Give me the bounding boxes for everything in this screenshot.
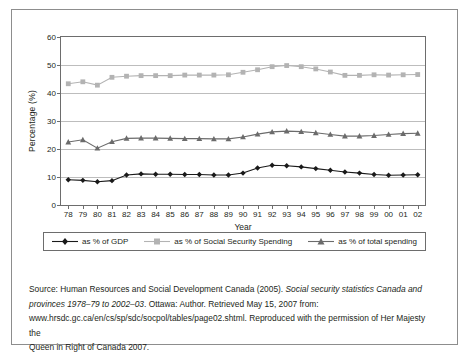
x-tick-mark	[258, 205, 259, 209]
source-line3: www.hrsdc.gc.ca/en/cs/sp/sdc/socpol/tabl…	[29, 313, 425, 338]
y-tick-label: 40	[47, 89, 56, 98]
x-tick-label: 89	[224, 210, 233, 219]
x-tick-mark	[243, 205, 244, 209]
x-tick-label: 87	[195, 210, 204, 219]
legend-label-social-security: as % of Social Security Spending	[174, 237, 292, 246]
x-tick-label: 86	[180, 210, 189, 219]
x-tick-label: 95	[311, 210, 320, 219]
data-point-marker	[211, 73, 216, 78]
x-tick-label: 79	[78, 210, 87, 219]
data-point-marker	[270, 64, 275, 69]
data-point-marker	[80, 178, 85, 183]
x-tick-mark	[185, 205, 186, 209]
data-point-marker	[255, 165, 260, 170]
data-point-marker	[313, 166, 318, 171]
x-tick-mark	[170, 205, 171, 209]
data-point-marker	[284, 163, 289, 168]
legend-marker-square-icon	[144, 237, 170, 246]
x-tick-mark	[359, 205, 360, 209]
x-tick-mark	[316, 205, 317, 209]
series-line-1	[68, 66, 417, 86]
y-axis-label: Percentage (%)	[27, 61, 37, 181]
x-tick-label: 02	[413, 210, 422, 219]
x-tick-mark	[301, 205, 302, 209]
data-point-marker	[343, 73, 348, 78]
x-tick-mark	[374, 205, 375, 209]
x-tick-mark	[199, 205, 200, 209]
data-point-marker	[284, 63, 289, 68]
legend-label-gdp: as % of GDP	[82, 237, 128, 246]
x-tick-mark	[97, 205, 98, 209]
data-point-marker	[110, 75, 115, 80]
data-point-marker	[342, 169, 347, 174]
data-point-marker	[372, 72, 377, 77]
x-tick-mark	[214, 205, 215, 209]
data-point-marker	[299, 64, 304, 69]
x-tick-label: 82	[122, 210, 131, 219]
data-point-marker	[371, 172, 376, 177]
data-point-marker	[328, 168, 333, 173]
x-tick-label: 91	[253, 210, 262, 219]
x-tick-mark	[228, 205, 229, 209]
x-tick-mark	[403, 205, 404, 209]
source-line1-a: Source: Human Resources and Social Devel…	[29, 284, 286, 294]
source-line4: Queen in Right of Canada 2007.	[29, 342, 149, 352]
data-point-marker	[415, 172, 420, 177]
data-point-marker	[357, 73, 362, 78]
data-point-marker	[109, 178, 114, 183]
x-tick-mark	[330, 205, 331, 209]
data-point-marker	[328, 70, 333, 75]
x-tick-label: 97	[340, 210, 349, 219]
plot-area: 0102030405060787980818283848586878889909…	[60, 36, 426, 206]
x-tick-mark	[272, 205, 273, 209]
legend-label-total-spending: as % of total spending	[338, 237, 417, 246]
source-line2-b: . Ottawa: Author. Retrieved May 15, 2007…	[144, 299, 319, 309]
x-tick-label: 92	[268, 210, 277, 219]
x-tick-mark	[389, 205, 390, 209]
x-tick-label: 99	[370, 210, 379, 219]
data-point-marker	[401, 72, 406, 77]
data-point-marker	[124, 172, 129, 177]
x-tick-label: 96	[326, 210, 335, 219]
data-point-marker	[95, 179, 100, 184]
x-tick-label: 01	[399, 210, 408, 219]
x-tick-mark	[345, 205, 346, 209]
data-point-marker	[415, 72, 420, 77]
legend-item-gdp: as % of GDP	[52, 237, 128, 246]
data-point-marker	[386, 173, 391, 178]
data-point-marker	[386, 73, 391, 78]
data-point-marker	[240, 170, 245, 175]
data-point-marker	[269, 163, 274, 168]
x-tick-label: 83	[137, 210, 146, 219]
source-line2-italic: provinces 1978–79 to 2002–03	[29, 299, 144, 309]
y-tick-label: 10	[47, 173, 56, 182]
data-point-marker	[168, 172, 173, 177]
y-tick-label: 0	[52, 201, 56, 210]
x-tick-mark	[418, 205, 419, 209]
x-axis-label: Year	[60, 222, 426, 232]
data-point-marker	[153, 172, 158, 177]
x-tick-mark	[68, 205, 69, 209]
x-tick-label: 81	[108, 210, 117, 219]
x-tick-label: 93	[282, 210, 291, 219]
chart-block: Percentage (%) 0102030405060787980818283…	[12, 16, 457, 266]
data-point-marker	[66, 177, 71, 182]
x-tick-label: 94	[297, 210, 306, 219]
data-point-marker	[400, 172, 405, 177]
x-tick-mark	[112, 205, 113, 209]
x-tick-mark	[83, 205, 84, 209]
x-tick-label: 00	[384, 210, 393, 219]
data-point-marker	[80, 137, 86, 142]
data-point-marker	[66, 81, 71, 86]
x-tick-label: 85	[166, 210, 175, 219]
x-tick-label: 78	[64, 210, 73, 219]
data-point-marker	[182, 73, 187, 78]
legend-item-social-security: as % of Social Security Spending	[144, 237, 292, 246]
chart-legend: as % of GDP as % of Social Security Spen…	[43, 232, 426, 251]
source-line1-italic: Social security statistics Canada and	[286, 284, 422, 294]
series-line-2	[68, 131, 417, 148]
data-point-marker	[124, 74, 129, 79]
y-tick-mark	[57, 205, 61, 206]
data-point-marker	[226, 72, 231, 77]
source-note: Source: Human Resources and Social Devel…	[29, 282, 439, 355]
